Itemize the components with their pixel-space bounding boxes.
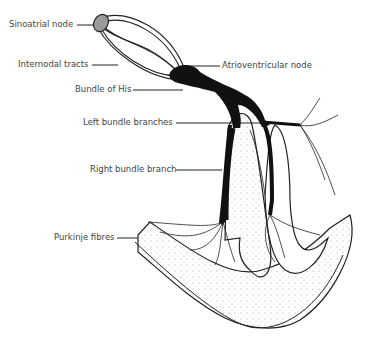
label-bundle-of-his: Bundle of His [75,84,131,94]
label-sinoatrial-node: Sinoatrial node [9,19,73,29]
label-purkinje-fibres: Purkinje fibres [54,232,115,242]
label-internodal-tracts: Internodal tracts [18,59,89,69]
conduction-system-diagram: Sinoatrial node Internodal tracts Bundle… [0,0,368,350]
bundle-of-his [169,65,270,128]
heart-illustration [0,0,368,350]
label-atrioventricular-node: Atrioventricular node [222,60,312,70]
label-right-bundle-branch: Right bundle branch [90,164,177,174]
label-left-bundle-branches: Left bundle branches [83,117,173,127]
